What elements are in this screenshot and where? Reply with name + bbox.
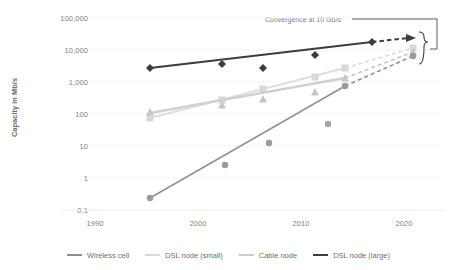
brace-icon: [419, 32, 428, 64]
data-point-marker: [266, 140, 272, 146]
data-point-marker: [147, 115, 154, 122]
chart-legend: Wireless cell DSL node (small) Cable nod…: [0, 244, 457, 266]
data-point-marker: [259, 95, 267, 103]
legend-label: DSL node (large): [333, 251, 390, 260]
data-point-marker: [311, 51, 319, 59]
series-wireless-cell: [147, 53, 416, 201]
legend-swatch-icon: [145, 254, 160, 256]
data-point-marker: [410, 53, 416, 59]
legend-item-cable-node[interactable]: Cable node: [239, 251, 297, 260]
data-point-marker: [146, 64, 154, 72]
data-point-marker: [368, 38, 376, 46]
data-point-marker: [218, 60, 226, 68]
legend-item-wireless-cell[interactable]: Wireless cell: [67, 251, 129, 260]
data-point-marker: [342, 65, 349, 72]
arrowhead-icon: [406, 34, 416, 42]
chart-plot-area: [0, 0, 457, 270]
legend-label: Cable node: [259, 251, 297, 260]
legend-label: Wireless cell: [87, 251, 129, 260]
data-point-marker: [342, 83, 348, 89]
legend-item-dsl-node-large[interactable]: DSL node (large): [313, 251, 390, 260]
data-point-marker: [147, 195, 153, 201]
data-point-marker: [311, 88, 319, 96]
convergence-annotation-graphic: [352, 19, 437, 64]
data-point-marker: [312, 74, 319, 81]
legend-item-dsl-node-small[interactable]: DSL node (small): [145, 251, 223, 260]
legend-swatch-icon: [67, 254, 82, 256]
legend-label: DSL node (small): [165, 251, 223, 260]
legend-swatch-icon: [313, 254, 328, 256]
chart-container: Capacity in Mb/s 100,000 10,000 1,000 10…: [0, 0, 457, 270]
gridlines: [60, 18, 445, 210]
data-point-marker: [259, 64, 267, 72]
legend-swatch-icon: [239, 254, 254, 256]
data-point-marker: [222, 162, 228, 168]
series-cable-node: [147, 45, 417, 122]
data-point-marker: [325, 121, 331, 127]
series-dsl-node-large: [146, 34, 416, 72]
